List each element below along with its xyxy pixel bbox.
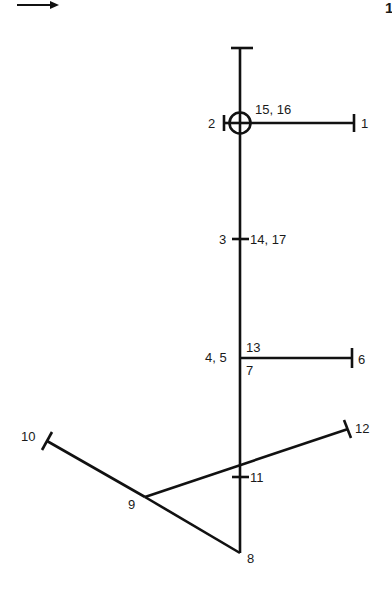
right-arrow-icon <box>17 1 59 9</box>
label-13: 13 <box>246 340 260 355</box>
branch-10-9 <box>47 441 145 497</box>
node-10-tick <box>42 432 52 450</box>
branch-9-12 <box>145 429 348 497</box>
label-12: 12 <box>355 421 369 436</box>
label-14-17: 14, 17 <box>250 232 286 247</box>
stick-diagram: 1 15, 16 2 1 3 14, 17 13 4, 5 7 6 10 12 … <box>0 0 392 594</box>
label-4-5: 4, 5 <box>205 350 227 365</box>
label-7: 7 <box>246 363 253 378</box>
label-11: 11 <box>250 470 264 485</box>
label-8: 8 <box>247 551 254 566</box>
label-2: 2 <box>208 116 215 131</box>
label-10: 10 <box>21 429 35 444</box>
page-marker: 1 <box>385 0 392 16</box>
label-3: 3 <box>219 232 226 247</box>
label-1: 1 <box>361 116 368 131</box>
branch-9-8 <box>145 497 240 553</box>
label-6: 6 <box>358 352 365 367</box>
label-15-16: 15, 16 <box>255 102 291 117</box>
label-9: 9 <box>128 497 135 512</box>
